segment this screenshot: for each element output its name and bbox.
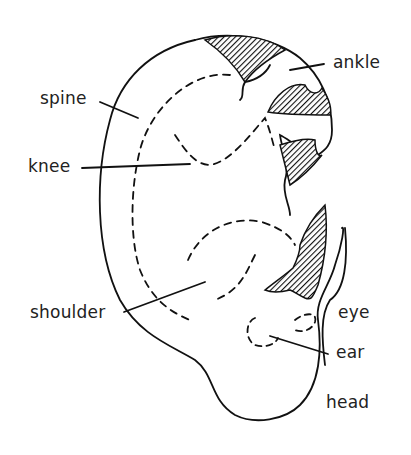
- label-spine: spine: [40, 88, 87, 108]
- shoulder-leader: [124, 282, 205, 312]
- label-eye: eye: [338, 302, 370, 322]
- ear-diagram: ankle spine knee shoulder eye ear head: [0, 0, 411, 455]
- spine-zone: [133, 75, 231, 320]
- label-ear: ear: [336, 342, 364, 362]
- knee-zone: [175, 118, 275, 165]
- hatch-concha: [265, 205, 326, 299]
- ear-zone: [248, 318, 279, 346]
- label-ankle: ankle: [333, 52, 380, 72]
- eye-zone: [295, 314, 315, 331]
- label-shoulder: shoulder: [30, 302, 105, 322]
- hatch-upper-right: [268, 85, 331, 115]
- label-head: head: [326, 392, 369, 412]
- label-knee: knee: [28, 156, 70, 176]
- spine-leader: [100, 102, 138, 118]
